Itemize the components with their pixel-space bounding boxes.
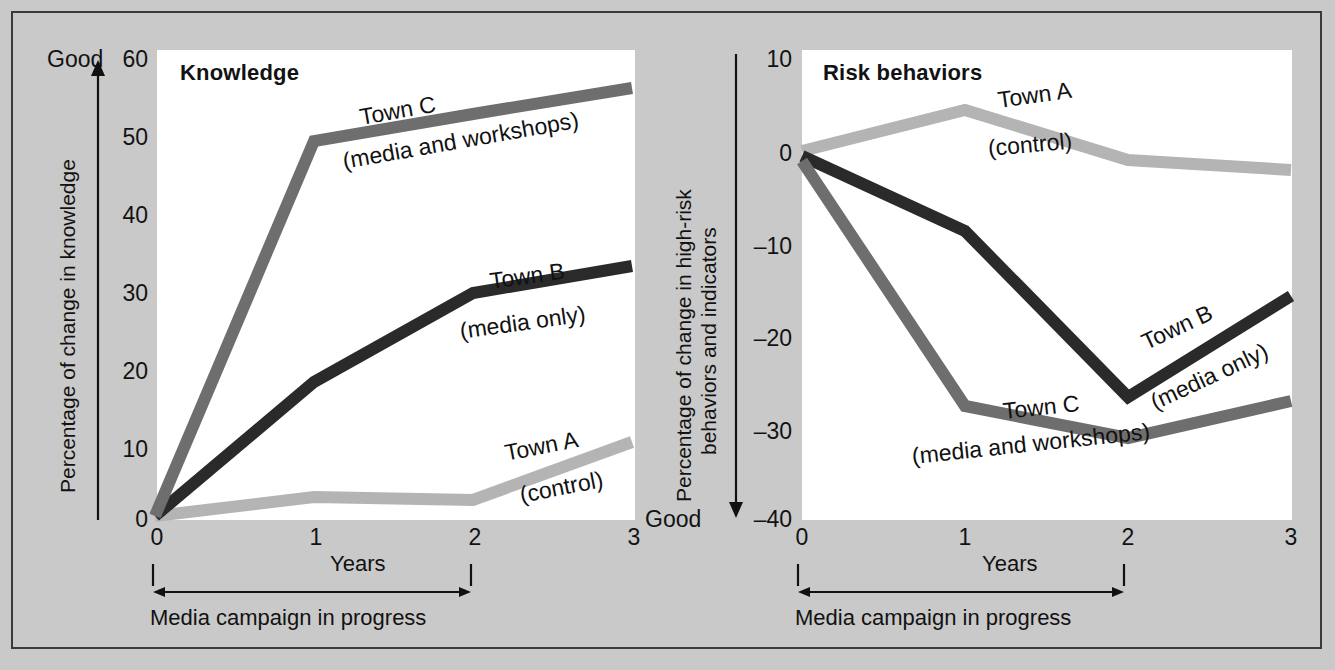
campaign-range-bracket-risk: [790, 560, 1160, 606]
good-arrow-up-icon: [78, 60, 118, 530]
good-arrow-down-icon: [716, 52, 756, 522]
campaign-label-knowledge: Media campaign in progress: [150, 605, 426, 631]
figure-container: Knowledge 60 50 40 30 20 10 0 Good Perce…: [0, 0, 1335, 670]
yaxis-title-knowledge: Percentage of change in knowledge: [56, 159, 80, 493]
series-lines-risk: [800, 48, 1300, 538]
yaxis-title-risk-line1: Percentage of change in high-risk: [672, 189, 696, 502]
campaign-range-bracket-knowledge: [145, 560, 505, 606]
yaxis-title-risk-line2: behaviors and indicators: [697, 227, 721, 455]
campaign-label-risk: Media campaign in progress: [795, 605, 1071, 631]
good-label-risk: Good: [645, 506, 701, 533]
